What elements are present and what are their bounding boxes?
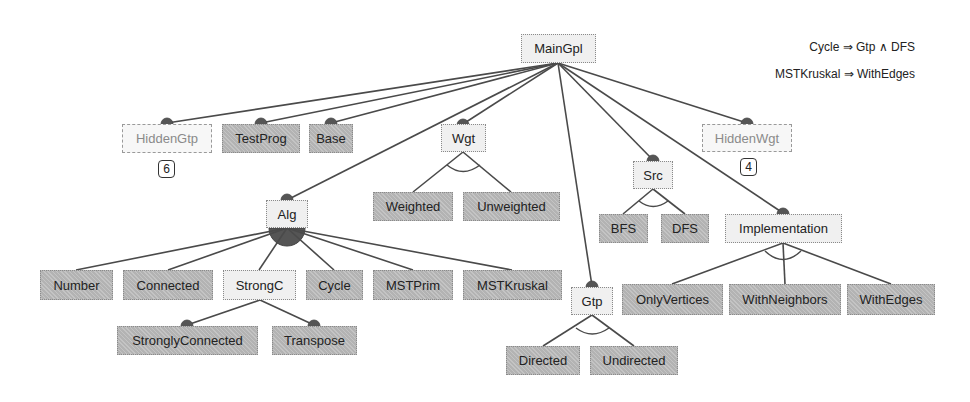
feature-testprog[interactable]: TestProg — [222, 124, 300, 153]
feature-mstkruskal[interactable]: MSTKruskal — [463, 270, 562, 300]
feature-wgt[interactable]: Wgt — [441, 124, 486, 152]
implementation-alt-group — [672, 243, 891, 284]
feature-alg[interactable]: Alg — [266, 200, 308, 228]
feature-undirected[interactable]: Undirected — [590, 346, 678, 375]
feature-stronglyconnected[interactable]: StronglyConnected — [117, 326, 258, 355]
src-alt-group — [623, 189, 685, 214]
feature-unweighted[interactable]: Unweighted — [463, 192, 560, 221]
feature-withneighbors[interactable]: WithNeighbors — [729, 284, 841, 315]
feature-base[interactable]: Base — [309, 124, 353, 153]
feature-bfs[interactable]: BFS — [599, 214, 648, 243]
feature-dfs[interactable]: DFS — [661, 214, 709, 243]
constraint-1: Cycle ⇒ Gtp ∧ DFS — [809, 40, 915, 54]
feature-weighted[interactable]: Weighted — [373, 192, 453, 221]
alternative-arc-icon — [639, 201, 668, 207]
feature-maingpl[interactable]: MainGpl — [521, 34, 596, 63]
hidden-count-badge: 6 — [158, 160, 175, 178]
feature-hiddengtp[interactable]: HiddenGtp — [122, 124, 212, 153]
alternative-arc-icon — [447, 165, 480, 172]
feature-number[interactable]: Number — [40, 270, 113, 300]
feature-strongc[interactable]: StrongC — [223, 270, 296, 300]
feature-implementation[interactable]: Implementation — [725, 214, 842, 243]
strongc-edges — [187, 300, 314, 325]
feature-transpose[interactable]: Transpose — [272, 326, 357, 355]
feature-gtp[interactable]: Gtp — [571, 287, 613, 315]
alternative-arc-icon — [576, 328, 609, 334]
feature-src[interactable]: Src — [633, 161, 673, 189]
feature-directed[interactable]: Directed — [506, 346, 580, 375]
wgt-alt-group — [413, 152, 511, 192]
root-edges — [167, 63, 783, 286]
feature-withedges[interactable]: WithEdges — [847, 284, 935, 315]
gtp-alt-group — [543, 315, 634, 346]
constraint-2: MSTKruskal ⇒ WithEdges — [775, 67, 915, 81]
feature-onlyvertices[interactable]: OnlyVertices — [622, 284, 723, 315]
feature-connected[interactable]: Connected — [123, 270, 213, 300]
alg-or-group — [76, 228, 512, 270]
feature-cycle[interactable]: Cycle — [306, 270, 363, 300]
feature-mstprim[interactable]: MSTPrim — [373, 270, 453, 300]
feature-model-diagram: MainGpl HiddenGtp 6 TestProg Base Wgt We… — [0, 0, 970, 402]
feature-hiddenwgt[interactable]: HiddenWgt — [702, 124, 792, 152]
hidden-count-badge: 4 — [740, 158, 757, 176]
